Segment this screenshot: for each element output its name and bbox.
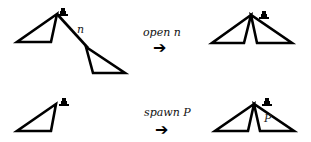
triangle-right-p [254,104,294,131]
arrow-right-icon: ➔ [155,122,168,138]
triangle-left [17,14,57,42]
triangle-hanging [86,47,125,73]
triangle-single [17,104,56,131]
token-icon [259,11,269,19]
token-icon [58,8,68,16]
triangle-right [251,15,292,43]
row1-after-diagram [212,15,292,43]
row2-before-diagram [17,104,56,131]
operation-label-spawn: spawn P [144,107,191,118]
arrow-right-icon: ➔ [153,40,166,56]
token-icon [59,98,69,106]
operation-label-open: open n [143,27,181,38]
triangle-label-p: P [264,113,271,124]
token-icon [262,98,272,106]
row2-after-diagram [215,104,294,131]
triangle-left [212,15,251,43]
edge-label-n: n [77,24,84,35]
row1-before-diagram [17,14,125,73]
triangle-left [215,104,254,131]
